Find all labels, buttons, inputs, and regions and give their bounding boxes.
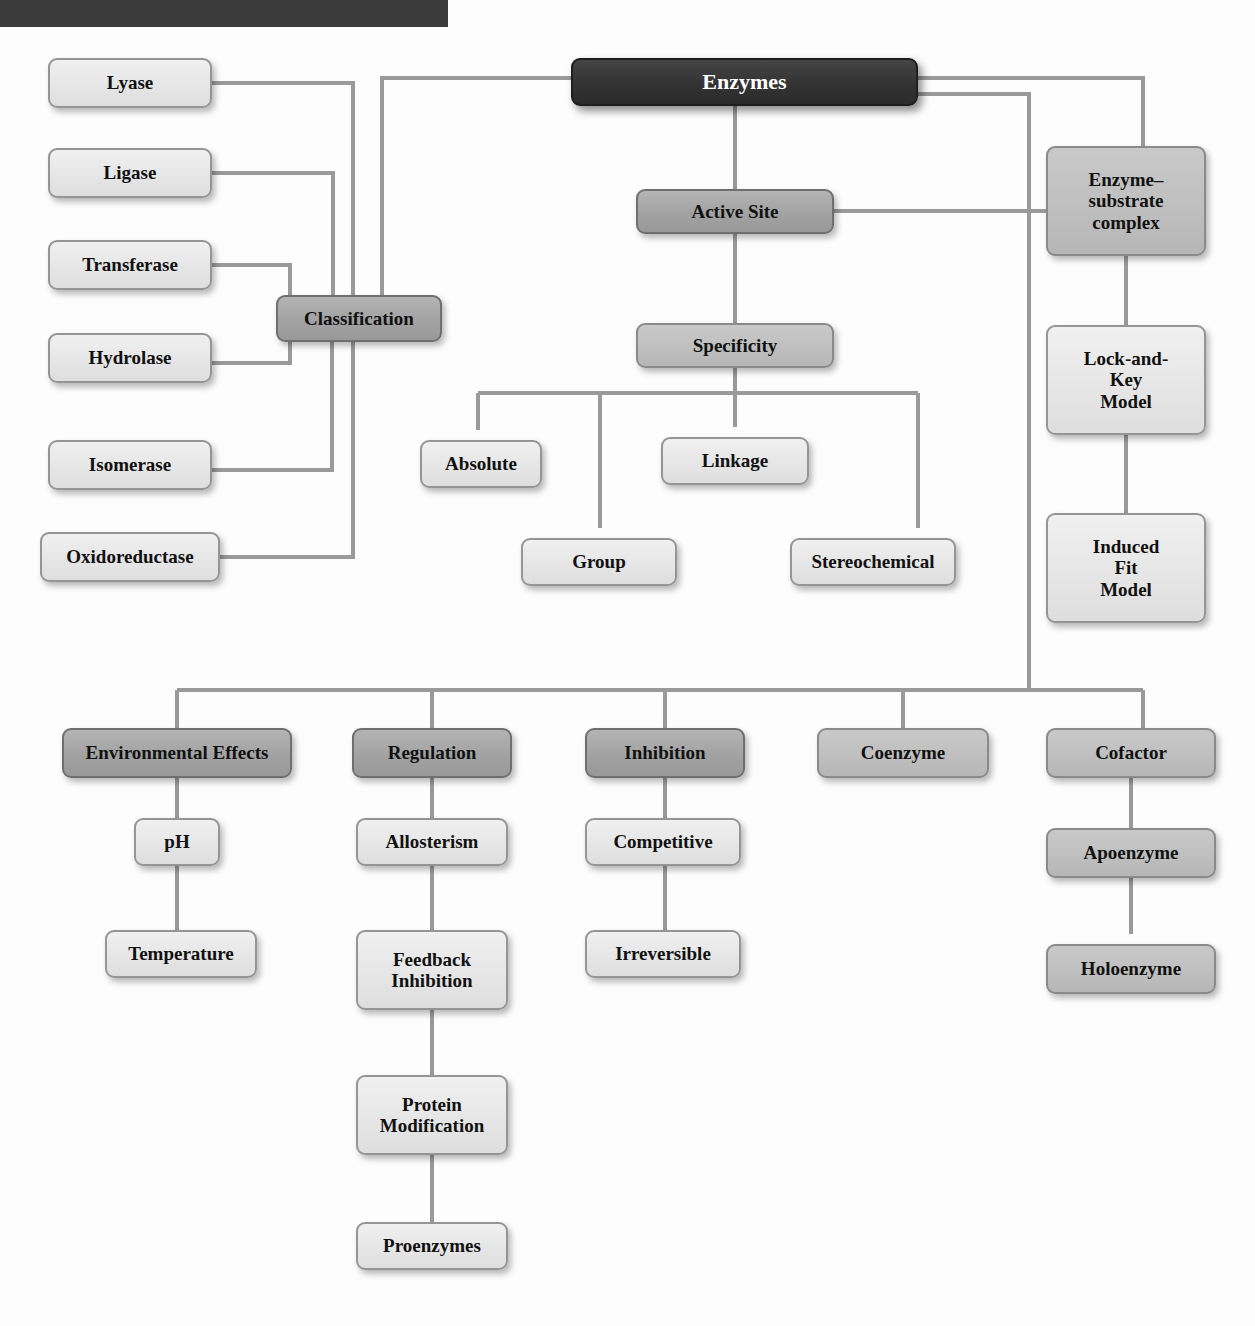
node-label: ProteinModification xyxy=(362,1094,502,1137)
node-oxidoreductase[interactable]: Oxidoreductase xyxy=(40,532,220,582)
node-label: Competitive xyxy=(591,831,735,852)
node-induced-fit[interactable]: InducedFitModel xyxy=(1046,513,1206,623)
node-label: Proenzymes xyxy=(362,1235,502,1256)
diagram-canvas: EnzymesLyaseLigaseTransferaseHydrolaseIs… xyxy=(0,0,1255,1326)
node-ph[interactable]: pH xyxy=(134,818,220,866)
node-label: Ligase xyxy=(54,162,206,183)
node-group[interactable]: Group xyxy=(521,538,677,586)
node-active-site[interactable]: Active Site xyxy=(636,189,834,234)
node-stereochemical[interactable]: Stereochemical xyxy=(790,538,956,586)
node-label: Enzyme–substratecomplex xyxy=(1052,169,1200,233)
node-label: Cofactor xyxy=(1052,742,1210,763)
node-label: Coenzyme xyxy=(823,742,983,763)
node-absolute[interactable]: Absolute xyxy=(420,440,542,488)
connector-line xyxy=(212,173,333,295)
node-label: Absolute xyxy=(426,453,536,474)
node-protein-modification[interactable]: ProteinModification xyxy=(356,1075,508,1155)
node-apoenzyme[interactable]: Apoenzyme xyxy=(1046,828,1216,878)
node-label: Inhibition xyxy=(591,742,739,763)
node-label: FeedbackInhibition xyxy=(362,949,502,992)
node-temperature[interactable]: Temperature xyxy=(105,930,257,978)
node-competitive[interactable]: Competitive xyxy=(585,818,741,866)
node-coenzyme[interactable]: Coenzyme xyxy=(817,728,989,778)
node-cofactor[interactable]: Cofactor xyxy=(1046,728,1216,778)
node-enzymes[interactable]: Enzymes xyxy=(571,58,918,106)
node-label: Temperature xyxy=(111,943,251,964)
node-label: Irreversible xyxy=(591,943,735,964)
node-label: Isomerase xyxy=(54,454,206,475)
node-enzyme-substrate[interactable]: Enzyme–substratecomplex xyxy=(1046,146,1206,256)
node-allosterism[interactable]: Allosterism xyxy=(356,818,508,866)
node-label: Enzymes xyxy=(577,70,912,95)
node-label: Lock-and-KeyModel xyxy=(1052,348,1200,412)
node-label: Oxidoreductase xyxy=(46,546,214,567)
node-label: Environmental Effects xyxy=(68,742,286,763)
node-linkage[interactable]: Linkage xyxy=(661,437,809,485)
node-hydrolase[interactable]: Hydrolase xyxy=(48,333,212,383)
node-inhibition[interactable]: Inhibition xyxy=(585,728,745,778)
node-label: Stereochemical xyxy=(796,551,950,572)
node-label: Classification xyxy=(282,308,436,329)
node-label: Transferase xyxy=(54,254,206,275)
connector-line xyxy=(212,342,290,363)
node-label: Group xyxy=(527,551,671,572)
node-label: Allosterism xyxy=(362,831,502,852)
node-label: Hydrolase xyxy=(54,347,206,368)
node-holoenzyme[interactable]: Holoenzyme xyxy=(1046,944,1216,994)
node-label: pH xyxy=(140,831,214,852)
node-lock-and-key[interactable]: Lock-and-KeyModel xyxy=(1046,325,1206,435)
node-feedback-inhibition[interactable]: FeedbackInhibition xyxy=(356,930,508,1010)
connector-line xyxy=(918,94,1029,690)
node-ligase[interactable]: Ligase xyxy=(48,148,212,198)
node-lyase[interactable]: Lyase xyxy=(48,58,212,108)
node-regulation[interactable]: Regulation xyxy=(352,728,512,778)
node-label: Lyase xyxy=(54,72,206,93)
node-label: Specificity xyxy=(642,335,828,356)
node-classification[interactable]: Classification xyxy=(276,295,442,342)
node-label: Apoenzyme xyxy=(1052,842,1210,863)
node-label: Linkage xyxy=(667,450,803,471)
node-transferase[interactable]: Transferase xyxy=(48,240,212,290)
node-specificity[interactable]: Specificity xyxy=(636,323,834,368)
node-environmental-effects[interactable]: Environmental Effects xyxy=(62,728,292,778)
connector-line xyxy=(382,78,571,295)
connector-line xyxy=(212,265,290,295)
node-label: Active Site xyxy=(642,201,828,222)
node-label: Holoenzyme xyxy=(1052,958,1210,979)
node-isomerase[interactable]: Isomerase xyxy=(48,440,212,490)
node-proenzymes[interactable]: Proenzymes xyxy=(356,1222,508,1270)
node-irreversible[interactable]: Irreversible xyxy=(585,930,741,978)
node-label: Regulation xyxy=(358,742,506,763)
node-label: InducedFitModel xyxy=(1052,536,1200,600)
